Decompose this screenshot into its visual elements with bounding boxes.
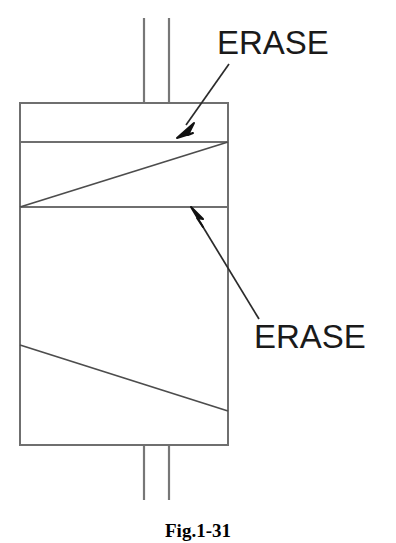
erase-label-top: ERASE — [217, 26, 329, 59]
figure-caption: Fig.1-31 — [0, 521, 396, 541]
erase-label-bottom: ERASE — [254, 320, 366, 353]
bottom-leads-group — [144, 444, 169, 500]
component-body-outline — [20, 103, 228, 445]
technical-diagram — [0, 0, 396, 543]
top-leads-group — [144, 18, 169, 104]
figure-container: ERASE ERASE Fig.1-31 — [0, 0, 396, 543]
